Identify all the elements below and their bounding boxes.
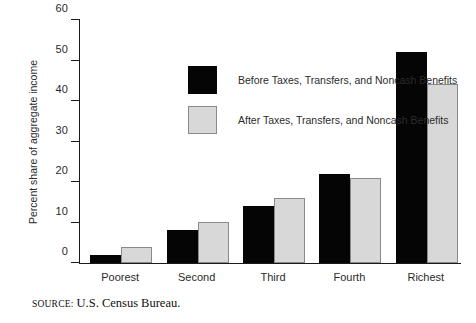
y-axis-title: Percent share of aggregate income [26, 20, 40, 264]
source-value: U.S. Census Bureau. [77, 296, 181, 310]
figure: Percent share of aggregate income 010203… [0, 0, 476, 323]
y-tick-label: 20 [56, 164, 68, 176]
bar-before-taxes [90, 255, 121, 263]
chart-legend: Before Taxes, Transfers, and Noncash Ben… [188, 65, 457, 145]
legend-label-after: After Taxes, Transfers, and Noncash Bene… [238, 114, 449, 126]
bar-before-taxes [243, 206, 274, 263]
y-tick-mark [71, 222, 80, 223]
y-tick-label: 50 [56, 43, 68, 55]
source-label: SOURCE: [32, 299, 74, 309]
x-tick-label: Fourth [333, 271, 365, 283]
plot-area: 0102030405060 PoorestSecondThirdFourthRi… [79, 20, 461, 264]
x-tick-label: Third [260, 271, 285, 283]
bar-after-taxes [274, 198, 305, 263]
bar-after-taxes [121, 247, 152, 263]
legend-swatch-after-icon [188, 106, 217, 134]
x-tick-label: Poorest [101, 271, 139, 283]
y-tick-mark [71, 262, 80, 263]
y-tick-mark [71, 100, 80, 101]
source-note: SOURCE: U.S. Census Bureau. [32, 296, 180, 311]
y-tick-label: 10 [56, 205, 68, 217]
bar-after-taxes [350, 178, 381, 263]
legend-item-after: After Taxes, Transfers, and Noncash Bene… [188, 105, 457, 135]
y-tick-mark [71, 19, 80, 20]
legend-item-before: Before Taxes, Transfers, and Noncash Ben… [188, 65, 457, 95]
y-tick-label: 60 [56, 2, 68, 14]
legend-label-before: Before Taxes, Transfers, and Noncash Ben… [238, 74, 457, 86]
y-tick-mark [71, 60, 80, 61]
legend-swatch-before-icon [188, 66, 217, 94]
bar-after-taxes [198, 222, 229, 263]
x-tick-label: Richest [407, 271, 444, 283]
y-tick-mark [71, 181, 80, 182]
y-tick-label: 30 [56, 124, 68, 136]
y-tick-label: 0 [62, 245, 68, 257]
y-tick-mark [71, 141, 80, 142]
y-tick-label: 40 [56, 83, 68, 95]
bar-before-taxes [319, 174, 350, 263]
bar-group [90, 20, 152, 263]
bar-before-taxes [167, 230, 198, 263]
x-tick-label: Second [178, 271, 215, 283]
